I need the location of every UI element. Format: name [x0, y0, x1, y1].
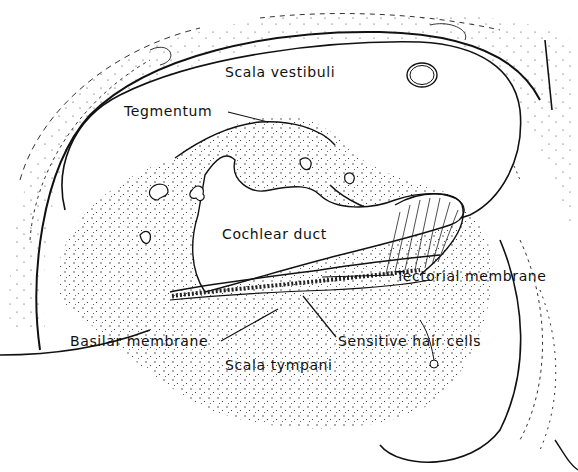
vessel-oval — [407, 63, 437, 87]
label-tegmentum: Tegmentum — [124, 103, 212, 119]
label-scala-tympani: Scala tympani — [225, 357, 333, 373]
label-tectorial-membrane: Tectorial membrane — [396, 268, 547, 284]
label-scala-vestibuli: Scala vestibuli — [225, 64, 335, 80]
label-basilar-membrane: Basilar membrane — [70, 333, 208, 349]
label-cochlear-duct: Cochlear duct — [222, 226, 327, 242]
label-sensitive-hair-cells: Sensitive hair cells — [338, 333, 481, 349]
